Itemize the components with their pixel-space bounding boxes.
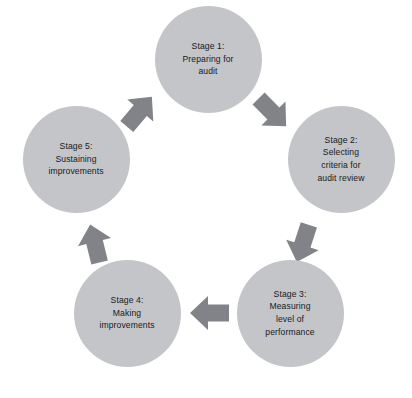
stage-node-4-label: Stage 4: Making improvements — [75, 294, 179, 332]
stage-node-4: Stage 4: Making improvements — [74, 260, 181, 367]
stage-node-2: Stage 2: Selecting criteria for audit re… — [288, 106, 395, 213]
stage-node-1: Stage 1: Preparing for audit — [155, 6, 262, 113]
arrow-stage4-to-stage5 — [74, 220, 116, 266]
stage-node-3: Stage 3: Measuring level of performance — [237, 260, 344, 367]
stage-node-5-label: Stage 5: Sustaining improvements — [24, 140, 128, 178]
stage-node-1-label: Stage 1: Preparing for audit — [156, 40, 260, 78]
stage-node-3-label: Stage 3: Measuring level of performance — [238, 288, 342, 338]
arrow-stage3-to-stage4 — [190, 296, 229, 330]
stage-node-5: Stage 5: Sustaining improvements — [23, 106, 130, 213]
clinical-audit-cycle-diagram: Stage 1: Preparing for audit Stage 2: Se… — [0, 0, 412, 398]
arrow-stage1-to-stage2 — [247, 87, 299, 139]
stage-node-2-label: Stage 2: Selecting criteria for audit re… — [289, 134, 393, 184]
